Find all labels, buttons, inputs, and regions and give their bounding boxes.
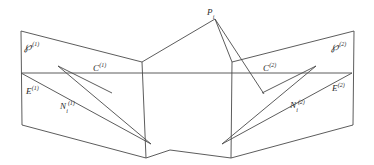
right-plane-left-edge [231,62,232,158]
lower-right-ray [170,150,231,158]
upper-epipolar-plane [142,19,264,94]
label-plane-left-sup: (1) [32,41,39,47]
label-center-left-sup: (1) [99,62,106,68]
label-plane-left: ℘(1) [24,41,39,52]
label-image-point-right-sup: (2) [298,99,305,105]
lower-left-ray [146,150,170,158]
label-plane-right: ℘(2) [331,41,346,52]
left-plane-top-edge [21,31,142,62]
figure-canvas [0,0,374,165]
left-image-plane [21,31,146,158]
label-epipole-right-sup: (2) [338,82,345,88]
label-image-point-left-sup: (1) [68,100,75,106]
epipolar-geometry-figure: Pi ℘(1) ℘(2) C(1) C(2) E(1) E(2) Ni(1) N… [0,0,374,165]
left-epipolar-line-long [21,73,151,144]
label-epipole-right: E(2) [332,82,345,93]
label-center-right: C(2) [263,62,276,73]
label-epipole-left-sup: (1) [32,85,39,91]
label-scene-point: Pi [207,8,214,19]
right-epipolar-lines [222,66,352,144]
left-plane-right-edge [142,62,146,158]
projection-rays [58,66,316,144]
left-epipolar-lines [21,66,151,144]
label-image-point-right: Ni(2) [290,99,305,112]
label-plane-right-sup: (2) [339,41,346,47]
label-image-point-left-sub: i [66,108,68,114]
label-center-right-sup: (2) [269,62,276,68]
label-epipole-left: E(1) [26,85,39,96]
right-plane-bottom-edge [231,125,353,158]
label-center-left: C(1) [93,62,106,73]
label-plane-right-base: ℘ [331,40,339,53]
label-image-point-left: Ni(1) [60,100,75,113]
apex-projection-ray [215,19,264,94]
left-plane-left-edge [21,31,22,125]
left-plane-bottom-edge [22,125,146,158]
label-scene-point-base: P [207,7,213,17]
lower-epipolar-plane [146,150,231,158]
right-plane-right-edge [353,31,354,125]
label-image-point-right-sub: i [296,107,298,113]
label-plane-left-base: ℘ [24,40,32,53]
label-epipole-right-base: E [332,83,338,93]
label-epipole-left-base: E [26,86,32,96]
apex-left-ray [142,19,215,62]
